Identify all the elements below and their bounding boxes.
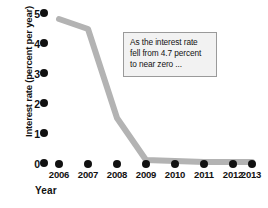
annotation-callout: As the interest rate fell from 4.7 perce… bbox=[123, 32, 217, 77]
interest-rate-line-chart: Interest rate (percent per year) 5 4 3 2… bbox=[0, 0, 268, 208]
data-point-marker-2007 bbox=[84, 160, 92, 168]
data-point-marker-2009 bbox=[142, 160, 150, 168]
y-axis-marker-dot-5 bbox=[40, 9, 48, 17]
y-axis-marker-dot-4 bbox=[40, 39, 48, 47]
annotation-line-1: As the interest rate bbox=[130, 37, 211, 48]
data-point-marker-2010 bbox=[171, 160, 179, 168]
y-axis-marker-dot-0 bbox=[40, 159, 48, 167]
data-point-marker-2013 bbox=[248, 160, 256, 168]
data-point-marker-2011 bbox=[200, 160, 208, 168]
data-point-marker-2012 bbox=[229, 160, 237, 168]
annotation-line-3: to near zero ... bbox=[130, 59, 211, 70]
y-axis-marker-dot-3 bbox=[40, 69, 48, 77]
y-axis-marker-dot-1 bbox=[40, 129, 48, 137]
y-axis-marker-dot-2 bbox=[40, 99, 48, 107]
data-point-marker-2008 bbox=[113, 160, 121, 168]
data-point-marker-2006 bbox=[55, 160, 63, 168]
annotation-line-2: fell from 4.7 percent bbox=[130, 48, 211, 59]
